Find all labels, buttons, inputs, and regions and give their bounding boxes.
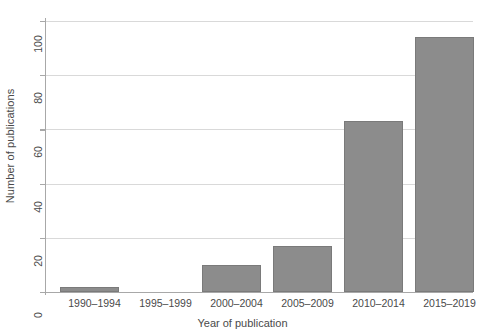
- bar-1990-1994[interactable]: [60, 287, 119, 292]
- plot-area: [46, 21, 473, 292]
- y-tick-label-40: 40: [32, 190, 44, 224]
- bar-chart: Number of publications 0 20 40 60 80 100…: [0, 0, 485, 336]
- x-axis-title: Year of publication: [0, 317, 485, 329]
- bar-2010-2014[interactable]: [344, 121, 403, 292]
- bar-2005-2009[interactable]: [273, 246, 332, 292]
- y-tick-label-20: 20: [32, 244, 44, 278]
- gridline-60: [46, 129, 473, 130]
- gridline-40: [46, 184, 473, 185]
- x-axis-line: [40, 292, 473, 293]
- y-axis-title: Number of publications: [2, 0, 18, 292]
- x-tick-label-2015-2019: 2015–2019: [384, 297, 485, 309]
- bar-2000-2004[interactable]: [202, 265, 261, 292]
- y-tick-label-60: 60: [32, 135, 44, 169]
- y-tick-label-100: 100: [32, 27, 44, 61]
- gridline-80: [46, 75, 473, 76]
- gridline-100: [46, 21, 473, 22]
- y-tick-label-80: 80: [32, 81, 44, 115]
- bar-2015-2019[interactable]: [415, 37, 474, 292]
- gridline-20: [46, 238, 473, 239]
